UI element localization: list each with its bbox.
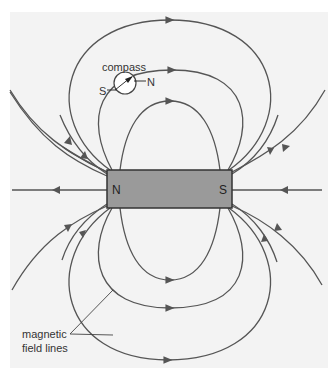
north-pole-label: N [112,183,121,197]
field-lines-annotation: magnetic field lines [22,290,113,354]
bar-magnet: N S [107,170,232,208]
compass-south-label: S [99,85,106,97]
left-open-field-lines [10,90,107,290]
arrow-left-icon [52,186,60,194]
compass-north-label: N [147,76,155,88]
right-open-field-lines [232,90,325,285]
south-pole-label: S [219,183,227,197]
annotation-line-1: magnetic [22,328,67,340]
compass-label: compass [102,61,147,73]
arrow-left-icon [280,186,288,194]
magnetic-field-diagram: N S compass S N magnetic field lines [0,0,332,377]
annotation-line-2: field lines [22,342,68,354]
compass: compass S N [99,61,155,97]
bottom-field-lines [69,208,270,360]
